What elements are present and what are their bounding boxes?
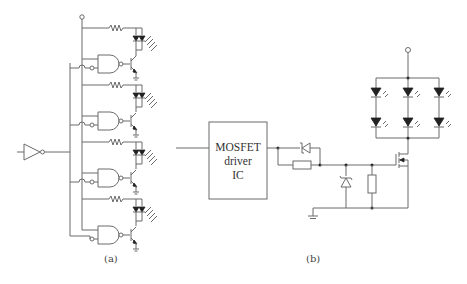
nand-gate-icon: [98, 226, 119, 244]
led-icon: [371, 118, 388, 127]
led-icon: [403, 118, 420, 127]
nand-gate-icon: [98, 112, 119, 130]
vcc-terminal-a: [80, 15, 84, 19]
panel-b-circuit: [176, 48, 451, 219]
led-icon: [403, 88, 420, 97]
mosfet-driver-ic-label: MOSFET driver IC: [209, 140, 267, 182]
mosfet-icon: [396, 138, 408, 208]
led-icon: [434, 88, 451, 97]
led-icon: [139, 93, 145, 98]
inverter-gate: [17, 144, 70, 160]
schottky-diode-icon: [300, 143, 310, 153]
led-icon: [133, 36, 139, 41]
panel-b-label: (b): [306, 253, 320, 264]
led-icon: [434, 118, 451, 127]
driver-stage-2: [70, 82, 157, 137]
led-icon: [133, 150, 139, 155]
driver-stage-4: [70, 196, 157, 251]
ground-icon: [308, 216, 318, 219]
led-icon: [139, 207, 145, 212]
zener-diode-icon: [340, 176, 352, 187]
ic-label-line1: MOSFET: [209, 140, 267, 154]
led-icon: [139, 150, 145, 155]
ic-label-line2: driver: [209, 154, 267, 168]
driver-stage-1: [70, 25, 157, 80]
resistor-icon: [109, 82, 123, 88]
panel-a-circuit: [17, 15, 157, 251]
nand-gate-icon: [98, 55, 119, 73]
driver-stage-3: [70, 139, 157, 194]
resistor-icon: [293, 161, 311, 169]
led-icon: [139, 36, 145, 41]
nand-gate-icon: [98, 169, 119, 187]
led-icon: [371, 88, 388, 97]
ic-label-line3: IC: [209, 168, 267, 182]
panel-a-label: (a): [104, 253, 118, 264]
resistor-icon: [368, 175, 376, 193]
led-icon: [133, 93, 139, 98]
resistor-icon: [109, 25, 123, 31]
resistor-icon: [109, 139, 123, 145]
resistor-icon: [109, 196, 123, 202]
vcc-terminal-b: [406, 48, 411, 53]
led-icon: [133, 207, 139, 212]
